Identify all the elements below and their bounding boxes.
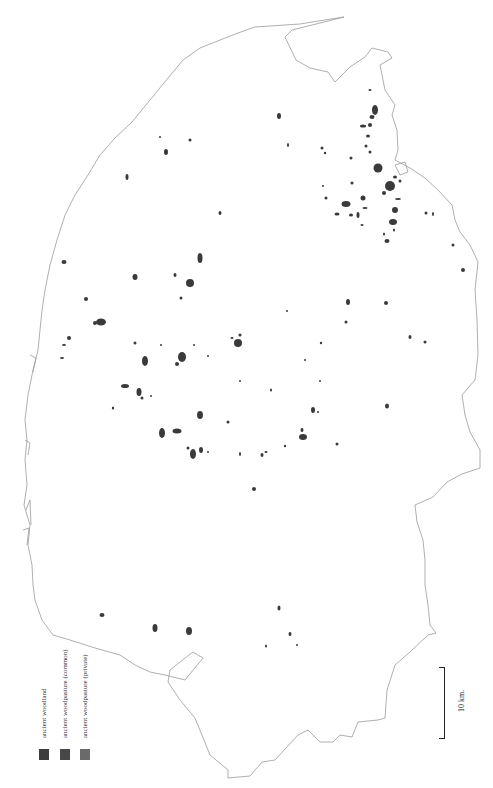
legend-swatch-ancient-woodland (39, 749, 49, 760)
map-canvas (0, 0, 493, 788)
legend-label-woodpasture-private: ancient woodpasture (private) (81, 654, 89, 738)
marsh-outline (23, 355, 36, 545)
scale-bar (439, 667, 445, 739)
legend-swatch-woodpasture-common (60, 749, 70, 760)
legend-label-woodpasture-common: ancient woodpasture (common) (61, 649, 69, 738)
woodland-patches (60, 89, 465, 648)
legend-swatch-woodpasture-private (80, 749, 90, 760)
scale-bar-label: 10 km. (457, 690, 466, 712)
county-outline (24, 17, 480, 778)
legend-label-ancient-woodland: ancient woodland (40, 688, 48, 738)
estuary-outline (395, 162, 408, 175)
